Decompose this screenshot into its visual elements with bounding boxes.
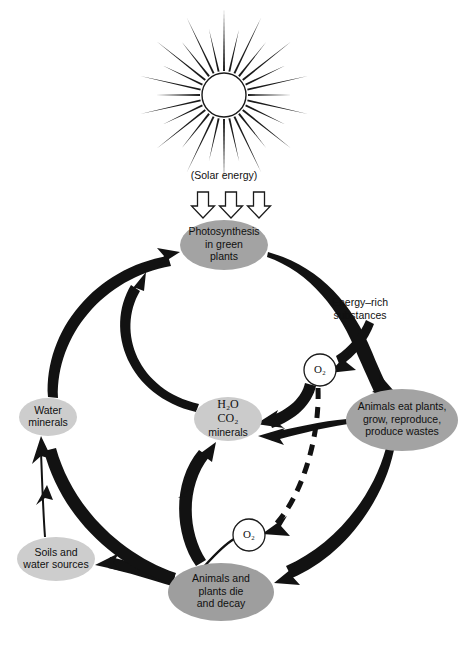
ecosystem-cycle-diagram: Photosynthesisin greenplantsAnimals eat … xyxy=(0,0,472,646)
node-animals-and-plants-die-and-decay-line: and decay xyxy=(197,597,246,609)
flow-animals-eat-to-die-decay xyxy=(286,448,394,578)
flow-o2-upper-to-o2-lower-head xyxy=(262,516,290,536)
solar-energy-arrows xyxy=(192,192,271,218)
sun-ray xyxy=(247,99,308,114)
diagram-nodes: Photosynthesisin greenplantsAnimals eat … xyxy=(17,220,458,621)
node-h2o-co2-minerals-line: H₂O xyxy=(217,397,239,411)
node-animals-eat-plants-line: Animals eat plants, xyxy=(358,400,447,412)
node-animals-and-plants-die-and-decay: Animals andplants dieand decay xyxy=(168,563,274,621)
flow-h2o-co2-to-photosynthesis xyxy=(120,285,199,412)
flow-die-decay-to-water-minerals-feather xyxy=(36,485,53,505)
o2-marker-lower: O₂ xyxy=(233,519,265,551)
o2-marker-upper: O₂ xyxy=(304,354,336,386)
solar-arrow-right xyxy=(248,192,271,218)
node-animals-eat-plants-line: grow, reproduce, xyxy=(363,413,441,425)
sun-ray xyxy=(156,94,200,96)
node-animals-eat-plants: Animals eat plants,grow, reproduce,produ… xyxy=(346,389,458,451)
node-photosynthesis-line: in green xyxy=(205,238,243,250)
node-animals-eat-plants-line: produce wastes xyxy=(365,425,439,437)
sun-ray xyxy=(248,94,292,96)
sun-icon xyxy=(140,9,308,181)
node-h2o-co2-minerals-line: minerals xyxy=(208,426,248,438)
node-h2o-co2-minerals: H₂OCO₂minerals xyxy=(194,397,262,441)
node-soils-and-water-sources-line: Soils and xyxy=(34,546,77,558)
o2-marker-lower-label: O₂ xyxy=(243,528,255,540)
node-soils-and-water-sources: Soils andwater sources xyxy=(17,537,95,581)
node-animals-and-plants-die-and-decay-line: plants die xyxy=(199,585,244,597)
node-photosynthesis-line: plants xyxy=(210,250,238,262)
diagram-page: Photosynthesisin greenplantsAnimals eat … xyxy=(0,0,472,646)
label-energy-rich-substances: substances xyxy=(333,309,386,321)
node-water-minerals: Waterminerals xyxy=(19,398,77,436)
flow-die-decay-to-h2o-co2 xyxy=(179,450,209,566)
node-h2o-co2-minerals-line: CO₂ xyxy=(218,411,239,425)
o2-marker-upper-label: O₂ xyxy=(314,363,326,375)
sun-ray xyxy=(140,99,201,114)
node-photosynthesis-line: Photosynthesis xyxy=(188,225,259,237)
sun-disc xyxy=(202,73,246,117)
solar-arrow-left xyxy=(192,192,215,218)
free-labels: Energy–richsubstances xyxy=(332,296,388,321)
node-photosynthesis: Photosynthesisin greenplants xyxy=(180,220,268,270)
node-animals-and-plants-die-and-decay-line: Animals and xyxy=(192,572,250,584)
flow-water-minerals-to-photosynthesis xyxy=(48,256,171,398)
label-solar-energy: (Solar energy) xyxy=(191,169,258,181)
solar-arrow-center xyxy=(220,192,243,218)
node-water-minerals-line: Water xyxy=(34,404,62,416)
oxygen-markers: O₂O₂ xyxy=(233,354,336,551)
sun-ray xyxy=(247,76,308,91)
sun-ray xyxy=(223,9,225,71)
node-water-minerals-line: minerals xyxy=(28,416,68,428)
sun-ray xyxy=(140,76,201,91)
label-energy-rich-substances: Energy–rich xyxy=(332,296,388,308)
node-soils-and-water-sources-line: water sources xyxy=(22,558,88,570)
